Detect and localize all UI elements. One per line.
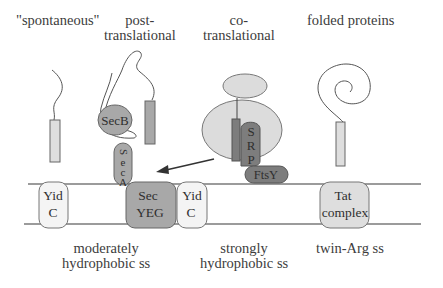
tat-line1: Tat [334,188,351,203]
folded-signal-segment [336,122,345,166]
label-strong-line2: hydrophobic ss [200,256,288,271]
secyeg-line2: YEG [136,205,164,220]
yidc-right-line1: Yid [182,188,202,203]
label-moderate-line2: hydrophobic ss [62,256,150,271]
spontaneous-chain [52,70,62,120]
srp-letter-r: R [247,138,256,153]
label-strongly-hydrophobic: strongly hydrophobic ss [200,241,288,271]
srp-letter-p: P [247,152,254,167]
label-moderate-line1: moderately [62,241,150,256]
srp-letter-s: S [247,124,254,139]
post-signal-segment [145,101,155,144]
tat-line2: complex [322,205,369,220]
folded-protein-spiral [318,64,370,122]
label-twin-arg: twin-Arg ss [316,241,384,256]
yidc-left-line2: C [48,205,57,220]
ftsy-label: FtsY [254,168,278,182]
seca-letter-1: S [118,149,130,155]
co-signal-segment [232,119,240,161]
spontaneous-signal-segment [50,120,60,162]
yidc-right-line2: C [186,205,195,220]
label-strong-line1: strongly [200,241,288,256]
secb-label: SecB [101,113,129,128]
targeting-arrow-line [166,159,214,170]
targeting-arrow-head [156,165,169,174]
label-moderately-hydrophobic: moderately hydrophobic ss [62,241,150,271]
seca-letter-4: A [119,176,127,188]
ribosome-small-subunit [223,74,267,98]
secyeg-line1: Sec [138,188,158,203]
yidc-left-line1: Yid [43,188,63,203]
